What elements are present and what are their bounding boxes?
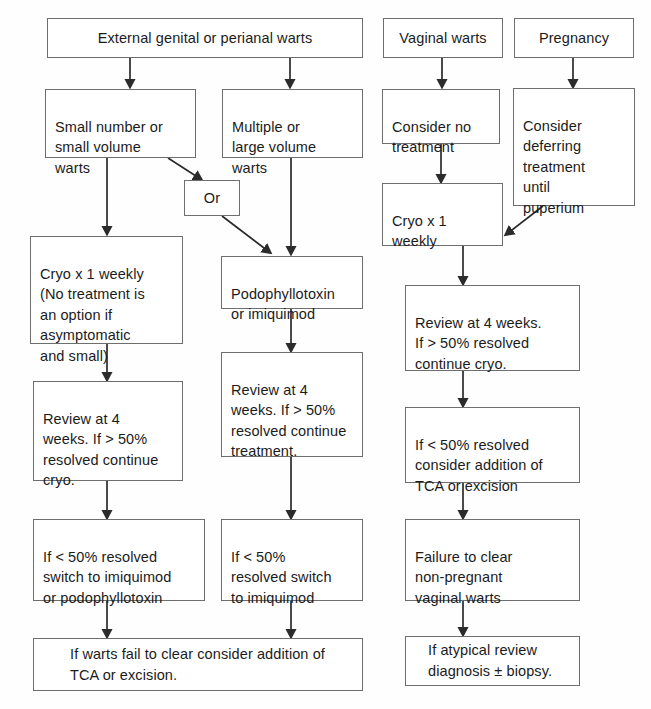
node-label: Consider deferring treatment until puper… (523, 118, 585, 216)
node-failure-to-clear[interactable]: Failure to clear non-pregnant vaginal wa… (405, 519, 580, 601)
node-multiple-large-warts[interactable]: Multiple or large volume warts (222, 89, 363, 158)
node-label: Multiple or large volume warts (232, 119, 316, 176)
node-label: Failure to clear non-pregnant vaginal wa… (415, 549, 513, 606)
node-review-vaginal[interactable]: Review at 4 weeks. If > 50% resolved con… (405, 285, 580, 371)
node-or-connector[interactable]: Or (184, 180, 240, 216)
node-external-genital-warts[interactable]: External genital or perianal warts (47, 18, 363, 58)
node-cryo-weekly-vaginal[interactable]: Cryo x 1 weekly (382, 183, 503, 246)
node-consider-no-treatment[interactable]: Consider no treatment (382, 89, 500, 144)
node-review-podophyllotoxin[interactable]: Review at 4 weeks. If > 50% resolved con… (221, 352, 363, 457)
edge-or-to-podophyllotoxin (222, 216, 268, 251)
node-label: If warts fail to clear consider addition… (70, 644, 325, 685)
node-label: Consider no treatment (392, 119, 471, 156)
node-vaginal-warts[interactable]: Vaginal warts (383, 18, 503, 58)
node-atypical-review[interactable]: If atypical review diagnosis ± biopsy. (405, 636, 580, 686)
node-label: Review at 4 weeks. If > 50% resolved con… (231, 382, 346, 460)
node-label: Review at 4 weeks. If > 50% resolved con… (43, 411, 158, 489)
node-label: Review at 4 weeks. If > 50% resolved con… (415, 315, 542, 372)
node-warts-fail-to-clear[interactable]: If warts fail to clear consider addition… (33, 638, 363, 691)
node-label: Cryo x 1 weekly (No treatment is an opti… (40, 266, 145, 364)
node-less50-vaginal[interactable]: If < 50% resolved consider addition of T… (405, 407, 580, 483)
node-podophyllotoxin-imiquimod[interactable]: Podophyllotoxin or imiquimod (221, 256, 363, 309)
node-label: If < 50% resolved consider addition of T… (415, 437, 543, 494)
node-cryo-weekly-option[interactable]: Cryo x 1 weekly (No treatment is an opti… (30, 236, 183, 344)
node-label: If < 50% resolved switch to imiquimod or… (43, 549, 171, 606)
node-small-number-warts[interactable]: Small number or small volume warts (45, 89, 196, 158)
node-label: Small number or small volume warts (55, 119, 163, 176)
node-consider-deferring-treatment[interactable]: Consider deferring treatment until puper… (513, 88, 635, 206)
node-review-cryo[interactable]: Review at 4 weeks. If > 50% resolved con… (33, 381, 183, 481)
node-label: Podophyllotoxin or imiquimod (231, 286, 335, 323)
node-label: Vaginal warts (399, 28, 486, 49)
node-label: External genital or perianal warts (98, 28, 313, 49)
node-label: Cryo x 1 weekly (392, 213, 447, 250)
node-less50-switch-to-imiquimod[interactable]: If < 50% resolved switch to imiquimod (221, 519, 363, 601)
flowchart-canvas: External genital or perianal warts Vagin… (0, 0, 651, 709)
node-label: Or (204, 188, 220, 209)
node-label: If < 50% resolved switch to imiquimod (231, 549, 332, 606)
node-less50-switch-imiquimod[interactable]: If < 50% resolved switch to imiquimod or… (33, 519, 205, 601)
node-label: Pregnancy (539, 28, 609, 49)
edge-small-to-or (168, 158, 199, 178)
node-pregnancy[interactable]: Pregnancy (514, 18, 634, 58)
node-label: If atypical review diagnosis ± biopsy. (428, 640, 552, 681)
